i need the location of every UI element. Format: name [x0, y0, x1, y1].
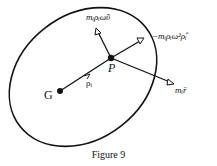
label-centripetal: −mᵢρᵢω²ρ̂ᵢ	[152, 31, 187, 41]
inertial-arrowhead	[167, 79, 174, 85]
point-g	[57, 88, 63, 94]
rigid-body-outline	[0, 0, 184, 166]
centripetal-force-arrow	[111, 41, 140, 58]
centripetal-arrowhead	[137, 38, 144, 44]
tangential-arrowhead	[95, 28, 101, 35]
label-rho: ρᵢ	[86, 78, 92, 88]
figure-caption: Figure 9	[0, 149, 217, 160]
label-p: P	[108, 61, 115, 76]
inertial-force-arrow	[111, 58, 170, 82]
label-tangential: mᵢρᵢω̇ῦ	[86, 12, 110, 22]
diagram-canvas	[0, 0, 217, 166]
label-inertial: mᵢr̈	[175, 85, 186, 95]
label-g: G	[44, 88, 53, 103]
tangential-force-arrow	[98, 32, 111, 58]
